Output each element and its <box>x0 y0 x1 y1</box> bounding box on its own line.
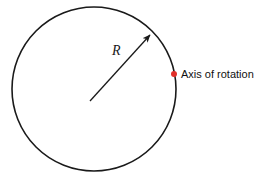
figure-canvas: R Axis of rotation <box>0 0 271 183</box>
disc-outline-circle <box>12 7 176 171</box>
axis-of-rotation-dot <box>171 71 177 77</box>
radius-label: R <box>111 43 121 58</box>
axis-of-rotation-label: Axis of rotation <box>181 68 254 80</box>
rotation-diagram: R Axis of rotation <box>0 0 271 183</box>
